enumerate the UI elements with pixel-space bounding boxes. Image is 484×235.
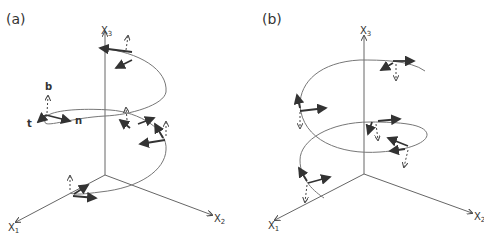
tangent-vector (138, 118, 154, 124)
binormal-vector (47, 96, 48, 113)
x2-label: X2 (474, 211, 484, 224)
binormal-vector (376, 124, 378, 140)
figure: (a) X3 X1 X2 b t n (b) X3 (0, 0, 484, 235)
normal-vector (308, 177, 330, 183)
normal-vector (300, 108, 326, 111)
normal-vector (46, 115, 70, 121)
normal-vector (381, 63, 393, 70)
normal-label: n (75, 115, 82, 126)
tangent-vector (297, 95, 300, 108)
x1-label: X1 (268, 220, 279, 233)
normal-vector (140, 140, 165, 144)
x2-axis (364, 174, 472, 213)
panel-a-label: (a) (6, 11, 26, 27)
x3-label: X3 (101, 25, 112, 38)
x2-axis (105, 175, 212, 215)
x1-axis (275, 174, 364, 220)
binormal-label: b (45, 81, 52, 92)
normal-vector (388, 138, 408, 146)
x3-label: X3 (360, 25, 371, 38)
normal-vector (120, 120, 130, 128)
x2-label: X2 (214, 213, 225, 226)
tangent-vector (74, 185, 88, 194)
tangent-vector (155, 124, 163, 138)
tangent-vector (378, 119, 400, 121)
tangent-vector (299, 168, 307, 181)
tangent-label: t (27, 118, 32, 129)
normal-vector (73, 196, 96, 198)
binormal-vector (404, 150, 408, 167)
normal-vector (368, 122, 372, 134)
panel-a: (a) X3 X1 X2 b t n (6, 11, 225, 235)
panel-b-label: (b) (262, 11, 282, 27)
binormal-vector (305, 185, 307, 202)
binormal-vector (126, 36, 128, 50)
normal-vector (116, 60, 132, 68)
x1-label: X1 (8, 222, 19, 235)
panel-b: (b) X3 X1 X2 (262, 11, 484, 233)
tangent-vector (390, 149, 405, 151)
